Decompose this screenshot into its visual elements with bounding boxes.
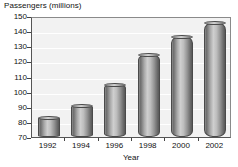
y-tick-mark xyxy=(27,78,31,79)
bar-top-ellipse xyxy=(138,53,160,57)
y-tick-label: 110 xyxy=(3,74,27,82)
y-tick-label: 90 xyxy=(3,104,27,112)
gridline xyxy=(32,124,230,125)
y-tick-label: 140 xyxy=(3,28,27,36)
bar xyxy=(104,84,126,137)
gridline xyxy=(32,33,230,34)
y-tick-mark xyxy=(27,32,31,33)
bar-top-ellipse xyxy=(171,35,193,39)
bar-chart: Passengers (millions) 150140130120110100… xyxy=(0,0,238,167)
gridline xyxy=(32,109,230,110)
y-tick-label: 150 xyxy=(3,13,27,21)
bar xyxy=(171,36,193,137)
bar-top-ellipse xyxy=(38,116,60,120)
x-tick-label: 2002 xyxy=(194,141,234,150)
bar xyxy=(38,117,60,137)
y-tick-mark xyxy=(27,47,31,48)
y-tick-mark xyxy=(27,93,31,94)
y-tick-mark xyxy=(27,62,31,63)
y-tick-label: 100 xyxy=(3,89,27,97)
y-tick-mark xyxy=(27,17,31,18)
plot-area xyxy=(31,17,231,138)
y-tick-mark xyxy=(27,138,31,139)
y-tick-label: 130 xyxy=(3,43,27,51)
gridline xyxy=(32,79,230,80)
gridline xyxy=(32,48,230,49)
bar xyxy=(71,105,93,137)
y-tick-mark xyxy=(27,108,31,109)
bar xyxy=(138,54,160,137)
y-tick-label: 70 xyxy=(3,134,27,142)
gridline xyxy=(32,63,230,64)
bar-top-ellipse xyxy=(71,104,93,108)
y-tick-mark xyxy=(27,123,31,124)
bar-top-ellipse xyxy=(104,83,126,87)
x-axis-title: Year xyxy=(31,153,231,162)
bar xyxy=(204,22,226,137)
bar-top-ellipse xyxy=(204,21,226,25)
y-axis-title: Passengers (millions) xyxy=(4,1,82,10)
y-tick-label: 80 xyxy=(3,119,27,127)
y-tick-label: 120 xyxy=(3,58,27,66)
gridline xyxy=(32,94,230,95)
